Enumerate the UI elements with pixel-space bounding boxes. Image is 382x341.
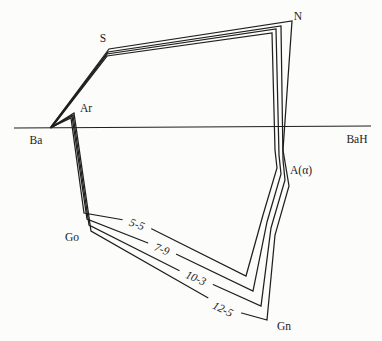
age-label-5-5: 5-5 (121, 212, 154, 234)
landmark-label-go: Go (65, 231, 79, 243)
landmark-label-n: N (294, 10, 303, 22)
age-label-10-3: 10-3 (177, 265, 215, 291)
landmark-label-bah: BaH (346, 133, 367, 145)
cephalometric-superimposition-figure: 5-5 7-9 10-3 12-5 S N Ar Ba BaH A(α) Go … (0, 0, 382, 341)
ba-bah-baseline (14, 126, 371, 128)
landmark-label-ba: Ba (30, 134, 43, 146)
landmark-label-gn: Gn (277, 320, 291, 332)
age-label-12-5: 12-5 (204, 295, 242, 322)
landmark-label-ar: Ar (80, 102, 92, 114)
landmark-label-s: S (100, 32, 106, 44)
landmark-label-a-alpha: A(α) (290, 164, 312, 177)
ceph-diagram-svg: 5-5 7-9 10-3 12-5 S N Ar Ba BaH A(α) Go … (0, 0, 382, 341)
tracing-polygon-5-5 (52, 33, 277, 276)
